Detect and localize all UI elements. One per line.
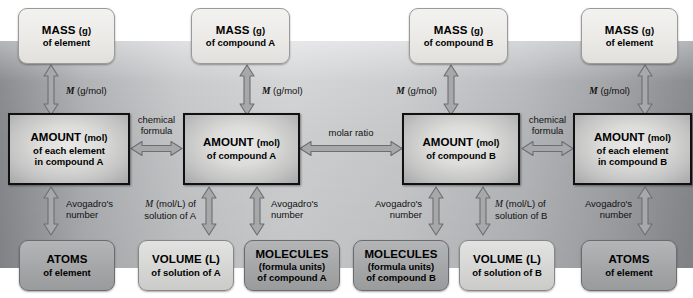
arrow-molar-ratio: [299, 140, 403, 157]
molar-mass-symbol: M: [396, 86, 404, 96]
arrow-amount-volume-b: [475, 186, 491, 236]
avogadro-line1: Avogadro's: [66, 198, 113, 209]
amount-unit: (mol): [648, 132, 671, 143]
solution-of-a: solution of A: [120, 210, 196, 221]
volume-sub: of solution of A: [151, 267, 220, 278]
arrow-mass-amount-element-b: [637, 64, 653, 116]
mass-label: MASS: [216, 24, 250, 36]
amount-sub1: of each element: [33, 145, 105, 156]
arrow-mass-amount-compound-b: [443, 64, 459, 116]
molecules-label: MOLECULES: [255, 248, 328, 262]
node-atoms-element-a[interactable]: ATOMS of element: [19, 240, 115, 291]
amount-sub2: in compound B: [598, 156, 667, 167]
chemical-formula-line2: formula: [515, 125, 580, 136]
label-avogadro-2: Avogadro's number: [271, 198, 318, 220]
label-molarity-b: M (mol/L) of solution of B: [495, 198, 547, 221]
arrow-mass-amount-element-a: [43, 64, 59, 116]
mass-label: MASS: [434, 24, 468, 36]
avogadro-line1: Avogadro's: [560, 198, 632, 209]
label-molar-mass-4: M (g/mol): [575, 85, 630, 97]
mass-unit: (g): [642, 25, 654, 36]
node-amount-element-b[interactable]: AMOUNT (mol) of each element in compound…: [573, 113, 692, 185]
arrow-chemical-formula-b: [521, 140, 574, 157]
node-amount-compound-a[interactable]: AMOUNT (mol) of compound A: [183, 113, 300, 185]
atoms-label: ATOMS: [47, 253, 88, 267]
molecules-sub1: (formula units): [368, 261, 435, 272]
amount-label: AMOUNT: [423, 136, 473, 148]
amount-label: AMOUNT: [594, 131, 644, 143]
molecules-sub1: (formula units): [259, 261, 326, 272]
node-amount-element-a[interactable]: AMOUNT (mol) of each element in compound…: [8, 113, 130, 185]
mass-sub: of compound A: [206, 37, 275, 48]
molarity-units: (mol/L) of: [506, 198, 546, 209]
label-molar-mass-1: M (g/mol): [66, 85, 107, 97]
solution-of-b: solution of B: [495, 210, 547, 221]
mass-sub: of element: [43, 37, 91, 48]
arrow-chemical-formula-a: [130, 140, 183, 157]
label-avogadro-1: Avogadro's number: [66, 198, 113, 220]
node-mass-element-a[interactable]: MASS (g) of element: [18, 8, 115, 64]
molar-mass-units: (g/mol): [77, 85, 107, 96]
molarity-symbol: M: [145, 199, 153, 209]
arrow-amount-molecules-b: [428, 186, 444, 236]
node-mass-compound-a[interactable]: MASS (g) of compound A: [191, 8, 290, 64]
amount-label: AMOUNT: [31, 131, 81, 143]
atoms-sub: of element: [605, 267, 653, 278]
label-avogadro-3: Avogadro's number: [348, 198, 422, 220]
mass-label: MASS: [42, 24, 76, 36]
amount-sub1: of each element: [597, 145, 669, 156]
amount-unit: (mol): [84, 132, 107, 143]
mass-label: MASS: [605, 24, 639, 36]
molarity-units: (mol/L) of: [156, 198, 196, 209]
chemical-formula-line2: formula: [124, 125, 189, 136]
node-molecules-b[interactable]: MOLECULES (formula units) of compound B: [353, 240, 449, 291]
amount-sub1: of compound A: [207, 150, 276, 161]
molecules-sub2: of compound B: [366, 272, 436, 283]
amount-label: AMOUNT: [203, 136, 253, 148]
molecules-sub2: of compound A: [257, 272, 326, 283]
label-molar-ratio: molar ratio: [318, 127, 384, 138]
label-molar-mass-3: M (g/mol): [382, 85, 437, 97]
avogadro-line2: number: [271, 209, 318, 220]
arrow-amount-atoms-b: [637, 186, 653, 236]
molar-mass-symbol: M: [589, 86, 597, 96]
avogadro-line2: number: [66, 209, 113, 220]
volume-label: VOLUME (L): [152, 253, 220, 267]
label-chemical-formula-a: chemical formula: [124, 114, 189, 136]
mass-sub: of compound B: [424, 37, 494, 48]
chemical-formula-line1: chemical: [124, 114, 189, 125]
chemical-formula-line1: chemical: [515, 114, 580, 125]
label-chemical-formula-b: chemical formula: [515, 114, 580, 136]
atoms-sub: of element: [43, 267, 91, 278]
molar-mass-symbol: M: [66, 86, 74, 96]
node-mass-element-b[interactable]: MASS (g) of element: [581, 8, 678, 64]
molecules-label: MOLECULES: [364, 248, 437, 262]
molar-mass-symbol: M: [262, 86, 270, 96]
mass-unit: (g): [79, 25, 91, 36]
molar-mass-units: (g/mol): [273, 85, 303, 96]
node-molecules-a[interactable]: MOLECULES (formula units) of compound A: [244, 240, 340, 291]
avogadro-line2: number: [560, 209, 632, 220]
label-molar-mass-2: M (g/mol): [262, 85, 303, 97]
atoms-label: ATOMS: [609, 253, 650, 267]
molar-mass-units: (g/mol): [407, 85, 437, 96]
avogadro-line1: Avogadro's: [348, 198, 422, 209]
arrow-amount-volume-a: [201, 186, 217, 236]
amount-sub2: in compound A: [35, 156, 104, 167]
label-molarity-a: M (mol/L) of solution of A: [120, 198, 196, 221]
mass-unit: (g): [253, 25, 265, 36]
node-atoms-element-b[interactable]: ATOMS of element: [581, 240, 677, 291]
molar-mass-units: (g/mol): [600, 85, 630, 96]
arrow-amount-molecules-a: [249, 186, 265, 236]
amount-unit: (mol): [257, 137, 280, 148]
node-volume-a[interactable]: VOLUME (L) of solution of A: [138, 240, 234, 291]
volume-label: VOLUME (L): [473, 253, 541, 267]
amount-unit: (mol): [476, 137, 499, 148]
node-mass-compound-b[interactable]: MASS (g) of compound B: [409, 8, 508, 64]
amount-sub1: of compound B: [426, 150, 496, 161]
node-volume-b[interactable]: VOLUME (L) of solution of B: [459, 240, 555, 291]
molarity-symbol: M: [495, 199, 503, 209]
avogadro-line1: Avogadro's: [271, 198, 318, 209]
node-amount-compound-b[interactable]: AMOUNT (mol) of compound B: [402, 113, 520, 185]
arrow-amount-atoms-a: [43, 186, 59, 236]
